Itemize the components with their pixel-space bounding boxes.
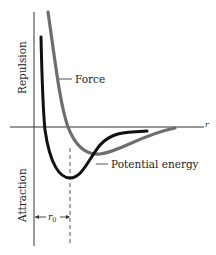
x-axis-label: r [205, 120, 210, 129]
right-arrowhead-icon [66, 215, 70, 219]
r0-label: r0 [48, 212, 56, 224]
potential-energy-label: Potential energy [111, 158, 199, 170]
repulsion-label: Repulsion [16, 41, 28, 94]
interatomic-force-diagram: Force Potential energy r Repulsion Attra… [0, 0, 216, 255]
r0-subscript: 0 [52, 216, 56, 224]
attraction-label: Attraction [16, 168, 28, 223]
left-arrowhead-icon [35, 215, 39, 219]
potential-energy-curve [41, 37, 147, 178]
force-label: Force [75, 73, 105, 85]
r0-dimension: r0 [35, 212, 70, 224]
force-curve [48, 12, 175, 154]
